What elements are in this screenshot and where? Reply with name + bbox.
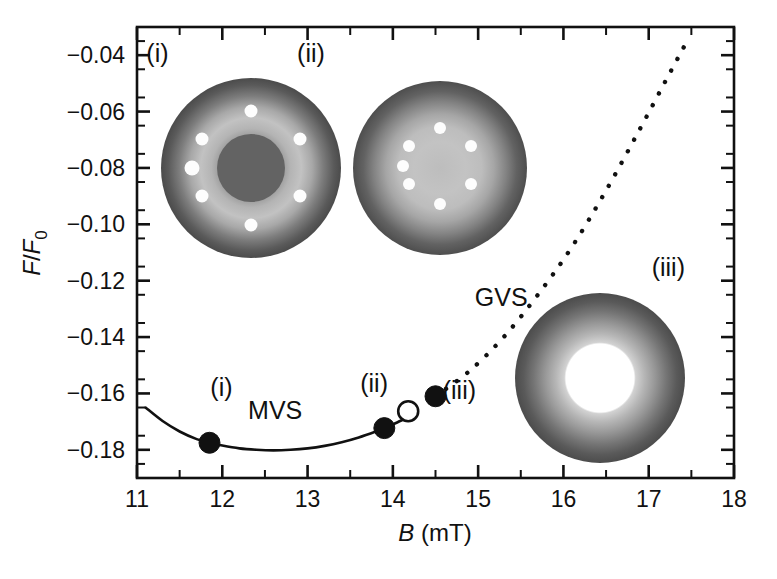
x-tick-label: 14 xyxy=(380,486,406,512)
gvs-branch-label: GVS xyxy=(475,283,528,311)
x-axis-tick-labels: 1112131415161718 xyxy=(125,486,747,512)
x-tick-label: 16 xyxy=(551,486,577,512)
y-tick-label: −0.14 xyxy=(67,324,125,350)
inset-ii-top-label: (ii) xyxy=(297,39,325,67)
y-tick-label: −0.18 xyxy=(67,437,125,463)
inset-ii-vortex-dot xyxy=(465,178,477,190)
y-tick-label: −0.04 xyxy=(67,42,125,68)
inset-ii-image xyxy=(353,81,527,255)
y-tick-label: −0.08 xyxy=(67,155,125,181)
x-tick-label: 13 xyxy=(295,486,321,512)
inset-i-vortex-dot xyxy=(196,190,209,203)
inset-ii-vortex-dot xyxy=(403,140,415,152)
data-marker-filled xyxy=(199,432,220,453)
curve-point-iii-label: (iii) xyxy=(443,376,476,404)
inset-ii-vortex-dot xyxy=(397,160,409,172)
inset-i-vortex-dot xyxy=(196,133,209,146)
y-axis-tick-labels: −0.04−0.06−0.08−0.10−0.12−0.14−0.16−0.18 xyxy=(67,42,125,463)
inset-iii-image xyxy=(515,293,685,463)
x-tick-label: 18 xyxy=(721,486,747,512)
x-tick-label: 11 xyxy=(125,486,149,512)
y-tick-label: −0.10 xyxy=(67,211,125,237)
x-tick-label: 15 xyxy=(465,486,491,512)
inset-iii-right-label: (iii) xyxy=(652,253,685,281)
x-axis-label: B (mT) xyxy=(398,519,471,546)
curve-point-ii-label: (ii) xyxy=(360,369,388,397)
figure-canvas: (i)(ii)(iii)(i)MVS(ii)(iii)GVS 111213141… xyxy=(0,0,777,579)
x-tick-label: 12 xyxy=(209,486,235,512)
x-tick-label: 17 xyxy=(636,486,662,512)
inset-i-image xyxy=(161,78,341,258)
phase-diagram-chart: (i)(ii)(iii)(i)MVS(ii)(iii)GVS 111213141… xyxy=(0,0,777,579)
inset-i-top-label: (i) xyxy=(146,39,168,67)
inset-i-vortex-dot xyxy=(245,105,258,118)
data-marker-open xyxy=(398,401,418,421)
inset-i-vortex-dot xyxy=(185,161,200,176)
y-tick-label: −0.06 xyxy=(67,99,125,125)
inset-i-vortex-dot xyxy=(294,133,307,146)
y-axis-label: F/F0 xyxy=(18,230,51,275)
inset-ii-vortex-dot xyxy=(403,178,415,190)
inset-ii-vortex-dot xyxy=(434,198,446,210)
inset-i-vortex-dot xyxy=(294,190,307,203)
curve-point-i-label: (i) xyxy=(210,373,232,401)
data-marker-filled xyxy=(374,418,395,439)
inset-i-vortex-dot xyxy=(245,219,258,232)
y-tick-label: −0.16 xyxy=(67,380,125,406)
y-tick-label: −0.12 xyxy=(67,268,125,294)
inset-ii-vortex-dot xyxy=(434,122,446,134)
inset-ii-vortex-dot xyxy=(465,140,477,152)
mvs-branch-label: MVS xyxy=(248,396,302,424)
